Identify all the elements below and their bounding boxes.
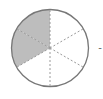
divider-line <box>50 48 83 67</box>
fraction-circle-diagram: - <box>0 0 103 99</box>
divider-line <box>50 29 83 48</box>
trailing-mark: - <box>98 42 102 53</box>
